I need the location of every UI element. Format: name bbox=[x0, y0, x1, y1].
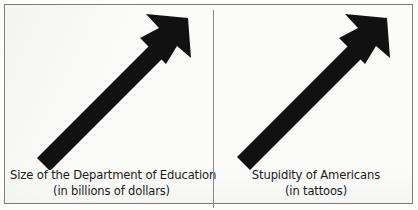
caption-stupidity-line-2: (in tattoos) bbox=[214, 183, 418, 199]
caption-education-line-2: (in billions of dollars) bbox=[10, 183, 213, 199]
arrow-area-education bbox=[10, 10, 213, 170]
up-right-arrow-icon bbox=[37, 14, 191, 170]
caption-education: Size of the Department of Education (in … bbox=[10, 167, 213, 199]
up-right-arrow-icon bbox=[237, 14, 390, 170]
figure-frame: Size of the Department of Education (in … bbox=[4, 4, 413, 204]
caption-stupidity: Stupidity of Americans (in tattoos) bbox=[214, 167, 418, 199]
two-panel-trend-figure: Size of the Department of Education (in … bbox=[0, 0, 418, 210]
arrow-area-stupidity bbox=[214, 10, 418, 170]
panel-education: Size of the Department of Education (in … bbox=[10, 10, 213, 208]
panel-stupidity: Stupidity of Americans (in tattoos) bbox=[214, 10, 418, 208]
caption-stupidity-line-1: Stupidity of Americans bbox=[214, 167, 418, 183]
caption-education-line-1: Size of the Department of Education bbox=[10, 167, 213, 183]
